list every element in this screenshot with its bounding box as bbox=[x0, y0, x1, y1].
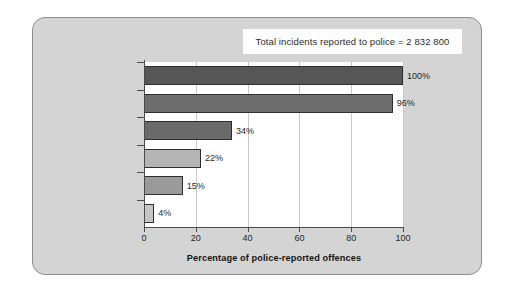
bar bbox=[144, 121, 232, 140]
x-axis-tick-label: 100 bbox=[395, 233, 410, 243]
gridline-40 bbox=[248, 62, 249, 227]
x-axis-line bbox=[144, 227, 404, 228]
y-axis-tick bbox=[137, 90, 144, 91]
x-axis-tick bbox=[351, 228, 352, 232]
bar-value-label: 15% bbox=[187, 181, 205, 191]
y-axis-tick bbox=[137, 172, 144, 173]
x-axis-tick-label: 40 bbox=[243, 233, 253, 243]
x-axis-tick-label: 20 bbox=[191, 233, 201, 243]
total-incidents-text: Total incidents reported to police = 2 8… bbox=[256, 36, 450, 47]
y-axis-tick bbox=[137, 117, 144, 118]
bar bbox=[144, 94, 393, 113]
y-axis-tick bbox=[137, 145, 144, 146]
gridline-80 bbox=[351, 62, 352, 227]
x-axis-tick bbox=[196, 228, 197, 232]
bar-value-label: 22% bbox=[205, 153, 223, 163]
bar-value-label: 100% bbox=[407, 71, 430, 81]
chart-figure: Total incidents reported to police = 2 8… bbox=[0, 0, 516, 293]
plot-background bbox=[144, 62, 403, 227]
x-axis-tick bbox=[299, 228, 300, 232]
x-axis-tick-label: 0 bbox=[141, 233, 146, 243]
gridline-100 bbox=[403, 62, 404, 227]
bar-value-label: 4% bbox=[158, 208, 171, 218]
x-axis-tick-label: 80 bbox=[346, 233, 356, 243]
x-axis-tick bbox=[248, 228, 249, 232]
bar bbox=[144, 176, 183, 195]
gridline-20 bbox=[196, 62, 197, 227]
bar bbox=[144, 204, 154, 223]
x-axis-title: Percentage of police-reported offences bbox=[144, 253, 404, 263]
y-axis-tick bbox=[137, 62, 144, 63]
y-axis-line bbox=[144, 60, 145, 229]
bar-value-label: 34% bbox=[236, 126, 254, 136]
y-axis-tick bbox=[137, 200, 144, 201]
bar bbox=[144, 149, 201, 168]
bar-value-label: 96% bbox=[397, 98, 415, 108]
x-axis-tick-label: 60 bbox=[294, 233, 304, 243]
bar bbox=[144, 66, 403, 85]
gridline-60 bbox=[299, 62, 300, 227]
x-axis-tick bbox=[144, 228, 145, 232]
plot-area: 100%96%34%22%15%4% bbox=[144, 62, 403, 227]
total-incidents-callout: Total incidents reported to police = 2 8… bbox=[243, 29, 462, 54]
x-axis-tick bbox=[403, 228, 404, 232]
